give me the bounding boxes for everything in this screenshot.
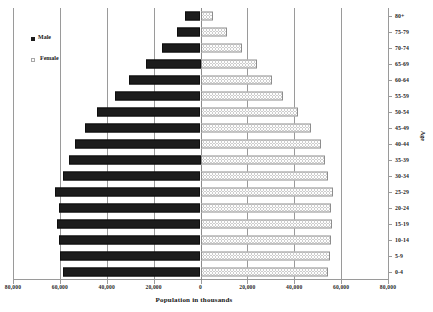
bar-row <box>13 8 388 24</box>
bar-row <box>13 72 388 88</box>
bar-male <box>75 140 201 149</box>
x-tick-label: 80,000 <box>5 284 21 290</box>
bar-female <box>201 220 333 229</box>
bar-male <box>129 76 200 85</box>
bar-female <box>201 124 311 133</box>
bar-female <box>201 44 242 53</box>
bar-male <box>85 124 200 133</box>
age-group-label: 20-24 <box>395 205 409 211</box>
legend-item-male: Male <box>31 34 101 46</box>
age-tick-mark <box>388 48 392 49</box>
legend-item-female: Female <box>31 55 101 67</box>
bar-row <box>13 184 388 200</box>
age-group-label: 65-69 <box>395 61 409 67</box>
bar-row <box>13 248 388 264</box>
age-tick-mark <box>388 128 392 129</box>
legend-swatch-female-icon <box>31 58 35 62</box>
bar-female <box>201 140 321 149</box>
bar-male <box>55 188 200 197</box>
x-tick-label: 0 <box>199 284 202 290</box>
bar-male <box>69 156 200 165</box>
bar-female <box>201 172 329 181</box>
bar-male <box>59 204 200 213</box>
bar-male <box>115 92 201 101</box>
bar-female <box>201 92 284 101</box>
chart-legend: Male Female <box>31 34 101 67</box>
x-tick-label: 40,000 <box>99 284 115 290</box>
bar-row <box>13 168 388 184</box>
bar-female <box>201 268 329 277</box>
age-group-label: 15-19 <box>395 221 409 227</box>
legend-label-male: Male <box>38 34 51 40</box>
age-group-label: 80+ <box>395 13 404 19</box>
bar-male <box>57 220 201 229</box>
bar-female <box>201 28 227 37</box>
age-tick-mark <box>388 16 392 17</box>
age-group-label: 5-9 <box>395 253 403 259</box>
bar-male <box>60 252 200 261</box>
bar-row <box>13 136 388 152</box>
x-axis-title: Population in thousands <box>0 296 388 304</box>
age-group-label: 70-74 <box>395 45 409 51</box>
legend-label-female: Female <box>40 55 59 61</box>
age-tick-mark <box>388 144 392 145</box>
age-tick-mark <box>388 80 392 81</box>
bar-row <box>13 104 388 120</box>
bar-male <box>97 108 201 117</box>
age-group-label: 0-4 <box>395 269 403 275</box>
bar-female <box>201 204 331 213</box>
age-tick-mark <box>388 256 392 257</box>
bar-female <box>201 60 257 69</box>
bar-row <box>13 200 388 216</box>
bar-row <box>13 88 388 104</box>
bar-male <box>185 12 201 21</box>
bar-row <box>13 152 388 168</box>
bar-male <box>177 28 201 37</box>
age-group-label: 45-49 <box>395 125 409 131</box>
age-tick-mark <box>388 192 392 193</box>
age-tick-mark <box>388 240 392 241</box>
age-group-label: 30-34 <box>395 173 409 179</box>
x-tick-label: 20,000 <box>145 284 161 290</box>
age-group-label: 40-44 <box>395 141 409 147</box>
age-tick-mark <box>388 64 392 65</box>
bar-female <box>201 108 299 117</box>
age-group-label: 35-39 <box>395 157 409 163</box>
age-group-label: 75-79 <box>395 29 409 35</box>
age-group-label: 10-14 <box>395 237 409 243</box>
bar-female <box>201 252 331 261</box>
bar-row <box>13 232 388 248</box>
age-tick-mark <box>388 96 392 97</box>
bar-male <box>146 60 200 69</box>
bar-row <box>13 264 388 280</box>
age-tick-mark <box>388 112 392 113</box>
bar-male <box>59 236 201 245</box>
bar-female <box>201 12 214 21</box>
bar-male <box>162 44 201 53</box>
x-tick-label: 20,000 <box>239 284 255 290</box>
bar-female <box>201 76 272 85</box>
age-group-label: 50-54 <box>395 109 409 115</box>
age-tick-mark <box>388 272 392 273</box>
bar-male <box>63 172 200 181</box>
age-tick-mark <box>388 160 392 161</box>
age-group-label: 60-64 <box>395 77 409 83</box>
x-tick-label: 80,000 <box>380 284 396 290</box>
bar-male <box>63 268 201 277</box>
bar-female <box>201 156 326 165</box>
x-tick-label: 40,000 <box>286 284 302 290</box>
bar-row <box>13 120 388 136</box>
bar-row <box>13 216 388 232</box>
age-tick-mark <box>388 224 392 225</box>
bar-female <box>201 236 332 245</box>
bar-female <box>201 188 333 197</box>
x-tick-label: 60,000 <box>333 284 349 290</box>
legend-swatch-male-icon <box>31 37 35 41</box>
age-tick-mark <box>388 208 392 209</box>
age-tick-mark <box>388 176 392 177</box>
age-tick-mark <box>388 32 392 33</box>
x-tick-label: 60,000 <box>52 284 68 290</box>
y-axis-title: Age <box>420 131 426 141</box>
age-group-label: 55-59 <box>395 93 409 99</box>
age-group-label: 25-29 <box>395 189 409 195</box>
